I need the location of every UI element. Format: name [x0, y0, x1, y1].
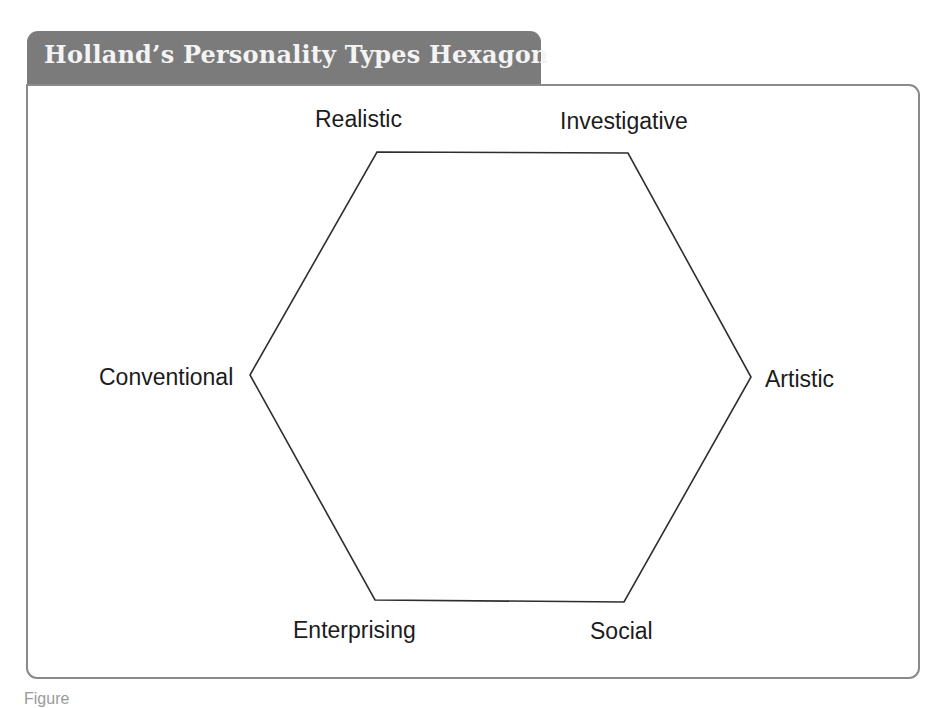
label-artistic: Artistic — [765, 368, 834, 391]
label-conventional: Conventional — [99, 366, 233, 389]
label-enterprising: Enterprising — [293, 619, 416, 642]
label-social: Social — [590, 620, 653, 643]
hexagon-shape — [250, 152, 751, 602]
figure-caption: Figure — [24, 690, 69, 708]
label-realistic: Realistic — [315, 108, 402, 131]
label-investigative: Investigative — [560, 110, 688, 133]
